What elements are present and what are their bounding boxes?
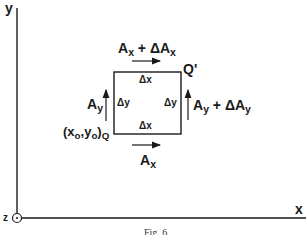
side-top-dx: Δx xyxy=(139,75,152,85)
corner-origin-label: (xo,yo)Q xyxy=(63,125,109,141)
point-q-prime: Q' xyxy=(183,62,197,76)
bottom-vector-label: Ax xyxy=(140,153,156,170)
vector-field-diagram: y x z Ax + ΔAx Q' Δx Δx Δy Δy Ay Ay + ΔA… xyxy=(0,0,308,235)
z-axis-label: z xyxy=(3,213,8,223)
x-axis-label: x xyxy=(295,202,303,216)
side-bottom-dx: Δx xyxy=(139,121,152,131)
right-vector-label: Ay + ΔAy xyxy=(193,98,251,115)
point-q: Q xyxy=(102,130,110,141)
side-left-dy: Δy xyxy=(117,98,130,108)
y-axis-label: y xyxy=(5,1,13,15)
figure-caption: Fig. 6 xyxy=(144,227,167,235)
top-vector-label: Ax + ΔAx xyxy=(118,41,176,58)
side-right-dy: Δy xyxy=(164,98,177,108)
diagram-lines xyxy=(0,0,308,235)
left-vector-label: Ay xyxy=(87,97,103,114)
